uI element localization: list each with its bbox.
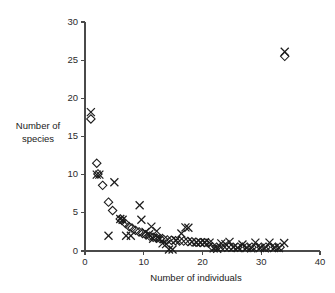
- marker-x-point: [136, 201, 144, 209]
- y-tick-label: 10: [67, 168, 78, 179]
- y-tick-label: 20: [67, 92, 78, 103]
- x-tick-label: 20: [197, 256, 208, 267]
- y-tick-label: 30: [67, 16, 78, 27]
- marker-diamond-point: [98, 181, 106, 189]
- data-points: [87, 48, 289, 254]
- marker-diamond-point: [104, 198, 112, 206]
- marker-x-point: [110, 178, 118, 186]
- marker-x-point: [280, 239, 288, 247]
- marker-diamond-point: [87, 115, 95, 123]
- marker-diamond-point: [93, 159, 101, 167]
- marker-x-point: [105, 232, 113, 240]
- y-tick-label: 0: [73, 245, 78, 256]
- y-tick-label: 15: [67, 130, 78, 141]
- y-axis-title-line2: species: [22, 133, 54, 144]
- y-axis-title-line1: Number of: [16, 120, 61, 131]
- y-tick-label: 25: [67, 54, 78, 65]
- x-tick-label: 0: [82, 256, 87, 267]
- x-tick-label: 10: [138, 256, 149, 267]
- y-tick-label: 5: [73, 206, 78, 217]
- marker-diamond-point: [281, 52, 289, 60]
- x-tick-label: 40: [315, 256, 326, 267]
- plot-canvas: 010203040051015202530 Number of individu…: [0, 0, 335, 293]
- scatter-plot-figure: 010203040051015202530 Number of individu…: [0, 0, 335, 293]
- marker-diamond-point: [108, 206, 116, 214]
- marker-x-point: [122, 232, 130, 240]
- marker-x-point: [137, 216, 145, 224]
- x-tick-label: 30: [256, 256, 267, 267]
- x-axis-title: Number of individuals: [150, 272, 242, 283]
